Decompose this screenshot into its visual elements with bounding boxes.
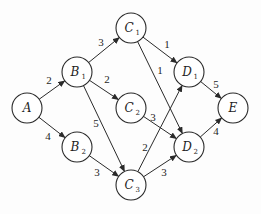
network-diagram: 2432531132354 AB1B2C1C2C3D1D2E: [0, 0, 261, 214]
node-c1: C1: [116, 13, 146, 43]
node-label: C: [124, 21, 133, 35]
node-subscript: 3: [136, 186, 140, 194]
node-subscript: 1: [136, 29, 140, 37]
edge-b1-c3: [83, 86, 124, 172]
edge-weight-a-b2: 4: [45, 130, 51, 142]
node-label: C: [124, 178, 133, 192]
edge-weight-c2-d2: 3: [150, 111, 156, 123]
edge-weight-a-b1: 2: [46, 74, 52, 86]
edge-a-b2: [39, 117, 65, 138]
node-label: E: [228, 101, 238, 115]
edge-weight-b2-c3: 3: [94, 166, 100, 178]
node-subscript: 1: [82, 73, 86, 81]
edge-weight-c3-d2: 3: [161, 166, 167, 178]
node-subscript: 1: [194, 73, 198, 81]
node-e: E: [218, 93, 248, 123]
edge-weight-d1-e: 5: [213, 78, 219, 90]
node-b2: B2: [62, 132, 92, 162]
node-c3: C3: [116, 170, 146, 200]
node-b1: B1: [62, 57, 92, 87]
edge-weight-b1-c3: 5: [93, 117, 99, 129]
node-label: D: [181, 140, 192, 154]
node-c2: C2: [116, 93, 146, 123]
node-a: A: [12, 93, 42, 123]
edge-weight-d2-e: 4: [213, 125, 219, 137]
edge-weight-c1-d1: 1: [164, 38, 170, 50]
node-subscript: 2: [136, 109, 140, 117]
node-label: A: [22, 101, 32, 115]
edge-weight-b1-c1: 3: [98, 36, 104, 48]
edge-c3-d1: [138, 85, 182, 171]
node-subscript: 2: [194, 148, 198, 156]
edge-weight-c3-d1: 2: [142, 141, 148, 153]
node-d1: D1: [174, 57, 204, 87]
edge-c3-d2: [144, 155, 177, 177]
node-label: B: [70, 65, 80, 79]
node-subscript: 2: [82, 148, 86, 156]
edge-c1-d2: [138, 41, 183, 133]
node-label: B: [70, 140, 80, 154]
edge-weight-c1-d2: 1: [157, 64, 163, 76]
node-label: D: [181, 65, 192, 79]
edge-b1-c1: [89, 37, 120, 62]
nodes-layer: AB1B2C1C2C3D1D2E: [12, 13, 248, 200]
edge-c1-d1: [143, 37, 177, 63]
edge-a-b1: [39, 81, 65, 99]
node-label: C: [124, 101, 133, 115]
edge-weight-b1-c2: 2: [104, 73, 110, 85]
node-d2: D2: [174, 132, 204, 162]
